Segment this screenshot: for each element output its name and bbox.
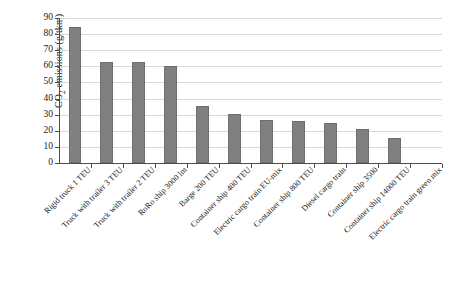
y-tick-label: 70 <box>44 45 54 55</box>
y-tick-label: 30 <box>44 110 54 120</box>
x-axis-label: RoRo ship 3000 lm <box>70 166 189 284</box>
y-tick-label: 10 <box>44 142 54 152</box>
bar <box>388 138 401 163</box>
bar <box>356 129 369 163</box>
y-tick-label: 60 <box>44 62 54 72</box>
bar <box>324 123 337 163</box>
y-tick-label: 0 <box>48 158 53 168</box>
y-tick-label: 80 <box>44 29 54 39</box>
plot-frame: CO2 emissions (g/tkm) 010203040506070809… <box>59 18 442 164</box>
x-axis-label: Truck with trailer 3 TEU <box>6 166 125 284</box>
bar <box>100 62 113 164</box>
bars <box>59 18 442 164</box>
bar <box>132 62 145 163</box>
bar <box>228 114 241 163</box>
x-axis-label: Electric cargo train EU-mix <box>165 166 284 284</box>
x-tick-mark <box>442 164 443 168</box>
x-axis-label: Diesel cargo train <box>229 166 348 284</box>
y-tick-label: 90 <box>44 13 54 23</box>
x-axis-category-labels: Rigid truck 1 TEUTruck with trailer 3 TE… <box>59 166 442 284</box>
x-axis-label: Barge 200 TEU <box>101 166 220 284</box>
bar <box>292 121 305 163</box>
y-tick-label: 40 <box>44 94 54 104</box>
y-tick-label: 20 <box>44 126 54 136</box>
x-axis-label: Container ship 800 TEU <box>197 166 316 284</box>
x-axis-label: Rigid truck 1 TEU <box>0 166 93 284</box>
bar <box>164 66 177 163</box>
x-axis-label: Container ship 3500 <box>261 166 380 284</box>
bar <box>260 120 273 163</box>
x-axis-label: Truck with trailer 2 TEU <box>38 166 157 284</box>
co2-emissions-bar-chart: CO2 emissions (g/tkm) 010203040506070809… <box>0 0 452 284</box>
bar <box>196 106 209 163</box>
bar <box>69 27 82 163</box>
y-tick-label: 50 <box>44 78 54 88</box>
x-axis-line <box>59 163 442 164</box>
x-axis-label: Electric cargo train green mix <box>325 166 444 284</box>
x-axis-label: Container ship 400 TEU <box>133 166 252 284</box>
x-axis-label: Container ship 14000 TEU <box>293 166 412 284</box>
y-axis-line <box>59 18 60 164</box>
